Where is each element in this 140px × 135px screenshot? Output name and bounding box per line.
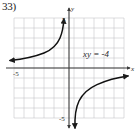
curve-branch-lower-right	[75, 76, 128, 128]
hyperbola-graph: xy = -4 y x -5 5 -5	[0, 0, 140, 135]
equation-annotation: xy = -4	[82, 49, 110, 59]
curve-branch-upper-left	[10, 19, 64, 61]
worksheet-graph-screenshot: 33)	[0, 0, 140, 135]
x-tick-label-neg5: -5	[13, 70, 19, 78]
y-tick-label-5: 5	[62, 16, 66, 24]
y-tick-label-neg5: -5	[59, 115, 65, 123]
x-axis-label: x	[130, 65, 135, 73]
y-axis-label: y	[70, 5, 75, 13]
